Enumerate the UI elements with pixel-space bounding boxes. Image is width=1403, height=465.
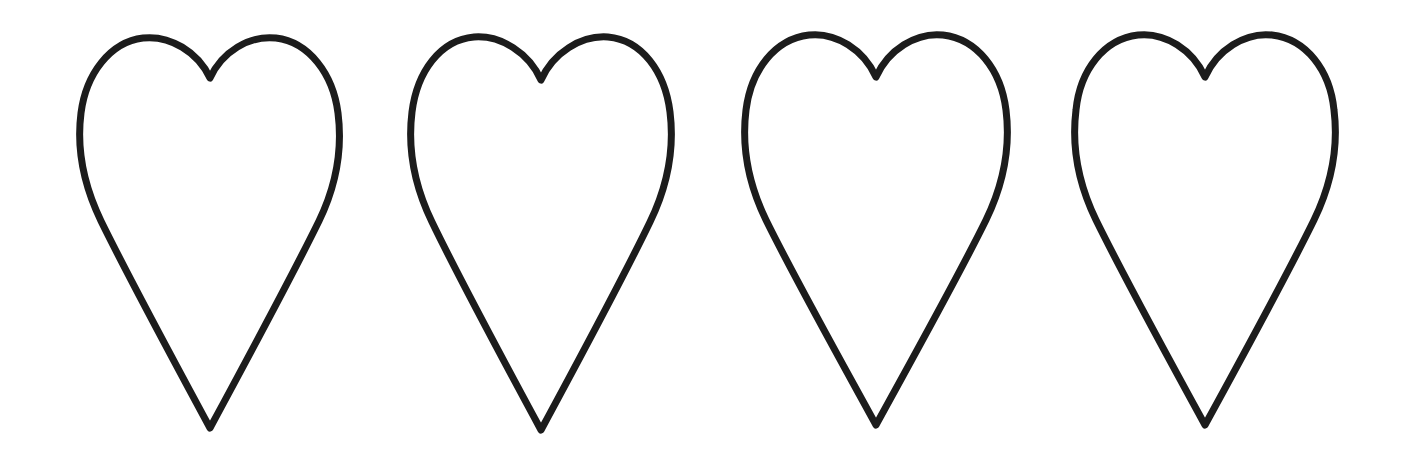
drawing-canvas [0,0,1403,465]
hearts-illustration [0,0,1403,465]
